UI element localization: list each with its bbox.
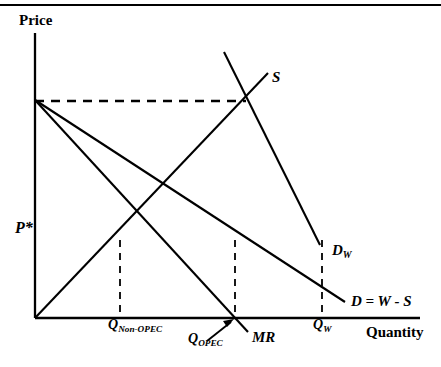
marginal-revenue-curve-label: MR bbox=[252, 330, 275, 345]
marginal-revenue-curve bbox=[35, 100, 248, 332]
q-world-base: Q bbox=[313, 317, 323, 332]
price-star-label: P* bbox=[15, 220, 33, 236]
x-axis-label: Quantity bbox=[366, 325, 424, 340]
q-opec-subscript: OPEC bbox=[198, 338, 223, 348]
q-non-opec-subscript: Non-OPEC bbox=[118, 324, 162, 334]
residual-demand-curve-label: D = W - S bbox=[351, 294, 412, 309]
q-world-label: QW bbox=[313, 318, 331, 332]
world-demand-curve-label: DW bbox=[332, 243, 352, 258]
q-world-subscript: W bbox=[323, 324, 331, 334]
supply-demand-diagram bbox=[0, 0, 441, 367]
q-opec-label: QOPEC bbox=[188, 332, 223, 346]
q-non-opec-base: Q bbox=[108, 317, 118, 332]
supply-curve bbox=[35, 73, 268, 318]
supply-curve-label: S bbox=[272, 70, 280, 85]
q-opec-base: Q bbox=[188, 331, 198, 346]
q-non-opec-label: QNon-OPEC bbox=[108, 318, 162, 332]
world-demand-base: D bbox=[332, 242, 343, 258]
world-demand-subscript: W bbox=[343, 249, 352, 260]
y-axis-label: Price bbox=[19, 13, 52, 28]
